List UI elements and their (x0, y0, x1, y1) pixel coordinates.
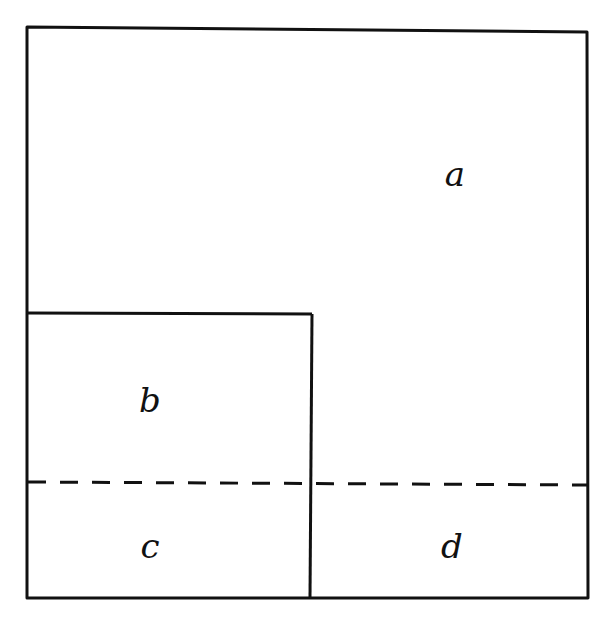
area-partition-diagram: a b c d (0, 0, 611, 627)
region-label-d: d (441, 526, 463, 566)
region-label-a: a (445, 154, 465, 194)
region-label-c: c (140, 526, 159, 566)
dashed-divider-line (28, 482, 588, 485)
region-label-b: b (139, 380, 161, 420)
inner-square-right-edge (310, 314, 312, 598)
inner-square-top-edge (27, 313, 312, 314)
